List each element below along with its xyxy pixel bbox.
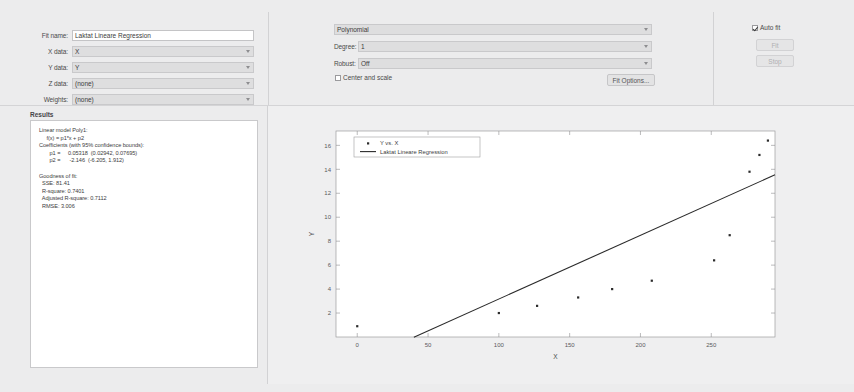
center-and-scale-label: Center and scale xyxy=(343,74,392,81)
svg-text:150: 150 xyxy=(565,342,576,348)
chevron-down-icon xyxy=(644,28,648,31)
field-row-robust: Robust: Off xyxy=(334,58,652,69)
z-data-select[interactable]: (none) xyxy=(72,78,254,89)
field-row-fit-name: Fit name: Laktat Lineare Regression xyxy=(36,30,262,41)
svg-text:6: 6 xyxy=(328,262,332,268)
auto-fit-label: Auto fit xyxy=(760,24,780,31)
svg-text:Laktat Lineare Regression: Laktat Lineare Regression xyxy=(380,149,448,155)
stop-button[interactable]: Stop xyxy=(756,55,794,67)
results-text: Linear model Poly1: f(x) = p1*x + p2 Coe… xyxy=(31,121,257,211)
checkbox-box xyxy=(752,25,758,31)
field-row-y-data: Y data: Y xyxy=(36,62,262,73)
svg-text:50: 50 xyxy=(425,342,432,348)
x-data-label: X data: xyxy=(36,48,68,55)
svg-text:4: 4 xyxy=(328,286,332,292)
svg-text:100: 100 xyxy=(494,342,505,348)
svg-text:200: 200 xyxy=(635,342,646,348)
weights-select[interactable]: (none) xyxy=(72,94,254,105)
svg-text:8: 8 xyxy=(328,238,332,244)
fit-plot[interactable]: 050100150200250246810121416XYY vs. XLakt… xyxy=(268,106,854,384)
degree-value: 1 xyxy=(361,43,365,50)
svg-text:16: 16 xyxy=(324,143,331,149)
plot-panel[interactable]: 050100150200250246810121416XYY vs. XLakt… xyxy=(268,106,854,384)
robust-label: Robust: xyxy=(334,60,356,67)
degree-label: Degree: xyxy=(334,43,356,50)
fit-type-value: Polynomial xyxy=(337,26,369,33)
fit-type-select[interactable]: Polynomial xyxy=(334,24,652,35)
field-row-z-data: Z data: (none) xyxy=(36,78,262,89)
z-data-label: Z data: xyxy=(36,80,68,87)
weights-value: (none) xyxy=(75,96,94,103)
fit-name-input[interactable]: Laktat Lineare Regression xyxy=(72,30,254,41)
chevron-down-icon xyxy=(246,50,250,53)
robust-select[interactable]: Off xyxy=(358,58,652,69)
center-and-scale-checkbox[interactable]: Center and scale xyxy=(335,74,392,81)
weights-label: Weights: xyxy=(36,96,68,103)
fit-name-label: Fit name: xyxy=(36,32,68,39)
degree-select[interactable]: 1 xyxy=(358,41,652,52)
fit-controls-panel xyxy=(714,0,854,106)
chevron-down-icon xyxy=(644,45,648,48)
x-data-select[interactable]: X xyxy=(72,46,254,57)
auto-fit-checkbox[interactable]: Auto fit xyxy=(752,24,780,31)
checkbox-box xyxy=(335,75,341,81)
chevron-down-icon xyxy=(246,98,250,101)
svg-text:X: X xyxy=(553,353,558,360)
y-data-label: Y data: xyxy=(36,64,68,71)
z-data-value: (none) xyxy=(75,80,94,87)
robust-value: Off xyxy=(361,60,370,67)
chevron-down-icon xyxy=(644,62,648,65)
fit-button[interactable]: Fit xyxy=(756,39,794,51)
results-label: Results xyxy=(30,111,53,118)
y-data-value: Y xyxy=(75,64,79,71)
chevron-down-icon xyxy=(246,66,250,69)
svg-text:14: 14 xyxy=(324,167,331,173)
x-data-value: X xyxy=(75,48,79,55)
field-row-degree: Degree: 1 xyxy=(334,41,652,52)
svg-text:2: 2 xyxy=(328,310,332,316)
svg-text:Y: Y xyxy=(308,231,315,236)
field-row-weights: Weights: (none) xyxy=(36,94,262,105)
svg-text:Y vs. X: Y vs. X xyxy=(380,140,398,146)
fit-options-button[interactable]: Fit Options... xyxy=(607,74,655,86)
svg-text:10: 10 xyxy=(324,214,331,220)
field-row-fit-type: Polynomial xyxy=(334,24,652,35)
field-row-x-data: X data: X xyxy=(36,46,262,57)
svg-text:12: 12 xyxy=(324,190,331,196)
y-data-select[interactable]: Y xyxy=(72,62,254,73)
svg-text:0: 0 xyxy=(356,342,360,348)
svg-text:250: 250 xyxy=(706,342,717,348)
chevron-down-icon xyxy=(246,82,250,85)
results-panel[interactable]: Linear model Poly1: f(x) = p1*x + p2 Coe… xyxy=(30,120,258,368)
fit-type-panel xyxy=(269,0,713,106)
